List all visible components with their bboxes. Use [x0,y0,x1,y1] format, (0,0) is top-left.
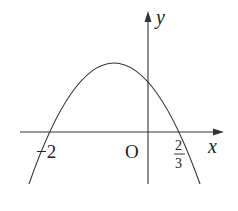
right-intercept-numerator: 2 [175,138,182,153]
right-intercept-denominator: 3 [175,156,182,171]
y-axis-label: y [154,6,165,29]
left-intercept-label: −2 [36,141,56,162]
origin-label: O [125,141,139,162]
parabola-figure: y x O −2 2 3 [0,0,238,211]
graph-canvas: y x O −2 2 3 [0,0,238,211]
x-axis-label: x [207,135,217,157]
y-axis-arrow-icon [145,11,152,22]
